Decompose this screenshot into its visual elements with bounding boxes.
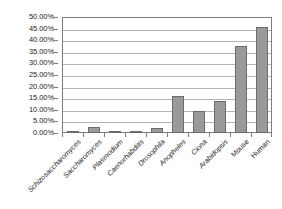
bar-chart: 0.00%5.00%10.00%15.00%20.00%25.00%30.00%… (0, 0, 282, 209)
bar-slot (209, 17, 230, 133)
y-axis-tick-label: 20.00% (29, 83, 54, 91)
y-axis-tick-mark (54, 40, 58, 41)
bar-slot (188, 17, 209, 133)
bar[interactable] (193, 111, 205, 134)
y-axis-tick-mark (54, 110, 58, 111)
y-axis-tick-mark (54, 87, 58, 88)
y-axis-tick-mark (54, 29, 58, 30)
y-axis-tick-label: 50.00% (29, 13, 54, 21)
bar-slot (230, 17, 251, 133)
y-axis-tick-mark (54, 75, 58, 76)
bar-slot (167, 17, 188, 133)
y-axis-tick-mark (54, 17, 58, 18)
bar-slot (125, 17, 146, 133)
y-axis-tick-label: 45.00% (29, 25, 54, 33)
y-axis: 0.00%5.00%10.00%15.00%20.00%25.00%30.00%… (0, 12, 58, 138)
y-axis-tick-label: 35.00% (29, 48, 54, 56)
bar[interactable] (214, 101, 226, 133)
bar[interactable] (256, 27, 268, 133)
y-axis-tick-label: 10.00% (29, 106, 54, 114)
bar-slot (83, 17, 104, 133)
y-axis-tick-label: 40.00% (29, 36, 54, 44)
y-axis-tick-label: 15.00% (29, 94, 54, 102)
bar[interactable] (235, 46, 247, 133)
bar-slot (62, 17, 83, 133)
bar-slot (146, 17, 167, 133)
y-axis-tick-label: 25.00% (29, 71, 54, 79)
y-axis-tick-mark (54, 121, 58, 122)
bar[interactable] (172, 96, 184, 133)
y-axis-tick-label: 30.00% (29, 59, 54, 67)
bar-slot (104, 17, 125, 133)
y-axis-tick-mark (54, 63, 58, 64)
bar-slot (251, 17, 272, 133)
y-axis-tick-mark (54, 98, 58, 99)
x-axis: SchizosaccharomycesSaccharomycesPlasmodi… (0, 133, 282, 209)
y-axis-tick-mark (54, 52, 58, 53)
y-axis-tick-label: 5.00% (33, 117, 54, 125)
bars-layer (62, 17, 272, 133)
